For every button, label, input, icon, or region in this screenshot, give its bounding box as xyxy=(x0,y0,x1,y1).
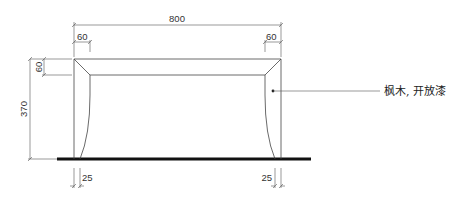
table-elevation-drawing: 800 60 60 60 370 25 2 xyxy=(0,0,461,201)
dim-25-left-label: 25 xyxy=(82,172,93,183)
dim-60-vertical-label: 60 xyxy=(33,62,44,73)
dimension-leg-bottom-left: 25 xyxy=(70,168,93,188)
dim-60-right-label: 60 xyxy=(266,31,277,42)
dimension-overall-width: 800 xyxy=(72,13,283,57)
dim-60-left-label: 60 xyxy=(77,31,88,42)
dim-800-label: 800 xyxy=(169,13,185,24)
dimension-top-left-rail: 60 xyxy=(72,31,92,52)
table-frame xyxy=(74,59,281,159)
dim-25-right-label: 25 xyxy=(261,172,272,183)
dim-370-label: 370 xyxy=(18,101,29,117)
material-annotation: 枫木, 开放漆 xyxy=(272,84,446,98)
dimension-top-rail-height: 60 xyxy=(30,57,72,77)
dimension-leg-bottom-right: 25 xyxy=(261,168,285,188)
dimension-top-right-rail: 60 xyxy=(263,31,283,52)
material-label: 枫木, 开放漆 xyxy=(384,84,446,98)
